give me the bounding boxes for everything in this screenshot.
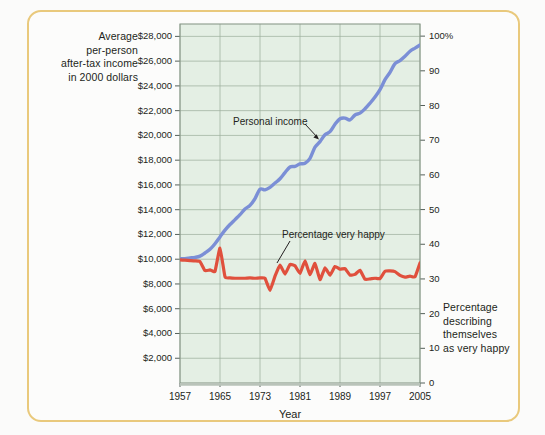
ytick-right-label: 0 bbox=[429, 377, 469, 388]
ytick-left-label: $6,000 bbox=[120, 303, 172, 314]
ytick-left-label: $14,000 bbox=[120, 204, 172, 215]
ytick-right-label: 100% bbox=[429, 30, 469, 41]
right-axis-title-line-3: themselves bbox=[443, 328, 539, 342]
ytick-left-label: $28,000 bbox=[120, 30, 172, 41]
x-axis-title: Year bbox=[260, 408, 320, 420]
ytick-right-label: 50 bbox=[429, 204, 469, 215]
ytick-left-label: $26,000 bbox=[120, 55, 172, 66]
ytick-right-label: 60 bbox=[429, 169, 469, 180]
xtick-label: 1957 bbox=[158, 391, 202, 402]
annotation-personal-income: Personal income bbox=[233, 116, 307, 127]
ytick-left-label: $10,000 bbox=[120, 253, 172, 264]
ytick-left-label: $24,000 bbox=[120, 80, 172, 91]
ytick-right-label: 30 bbox=[429, 273, 469, 284]
ytick-left-label: $4,000 bbox=[120, 327, 172, 338]
ytick-right-label: 40 bbox=[429, 238, 469, 249]
ytick-right-label: 10 bbox=[429, 342, 469, 353]
ytick-left-label: $2,000 bbox=[120, 352, 172, 363]
ytick-left-label: $16,000 bbox=[120, 179, 172, 190]
ytick-right-label: 20 bbox=[429, 308, 469, 319]
xtick-label: 1989 bbox=[318, 391, 362, 402]
right-tick-marks bbox=[420, 36, 425, 383]
ytick-left-label: $22,000 bbox=[120, 105, 172, 116]
xtick-label: 1981 bbox=[278, 391, 322, 402]
left-tick-marks bbox=[175, 36, 180, 358]
ytick-left-label: $20,000 bbox=[120, 129, 172, 140]
xtick-label: 1965 bbox=[198, 391, 242, 402]
ytick-left-label: $8,000 bbox=[120, 278, 172, 289]
ytick-right-label: 90 bbox=[429, 65, 469, 76]
ytick-left-label: $12,000 bbox=[120, 228, 172, 239]
annotation-percentage-very-happy: Percentage very happy bbox=[282, 229, 385, 240]
xtick-label: 2005 bbox=[398, 391, 442, 402]
xtick-label: 1997 bbox=[358, 391, 402, 402]
xtick-label: 1973 bbox=[238, 391, 282, 402]
ytick-left-label: $18,000 bbox=[120, 154, 172, 165]
ytick-right-label: 70 bbox=[429, 134, 469, 145]
figure-canvas: Average per-person after-tax income in 2… bbox=[0, 0, 545, 435]
ytick-right-label: 80 bbox=[429, 100, 469, 111]
